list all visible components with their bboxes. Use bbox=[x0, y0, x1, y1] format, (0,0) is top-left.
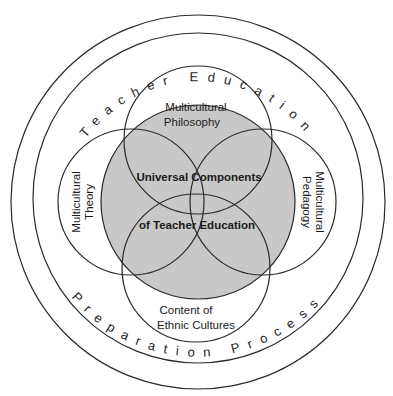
theory-label-line1: Multicultural bbox=[70, 171, 82, 232]
core-label-line1: Universal Components bbox=[136, 171, 261, 183]
core-circle bbox=[101, 105, 295, 299]
content-label-line1: Content of bbox=[159, 304, 213, 316]
philosophy-label-line2: Philosophy bbox=[164, 116, 221, 128]
pedagogy-label-line2: Pedagogy bbox=[301, 176, 313, 228]
pedagogy-label-line1: Multicultural bbox=[314, 171, 326, 232]
theory-label-line2: Theory bbox=[83, 184, 95, 220]
teacher-education-diagram: Teacher Education Preparation Process Mu… bbox=[0, 0, 393, 396]
content-label-line2: Ethnic Cultures bbox=[157, 319, 235, 331]
philosophy-label-line1: Multicultural bbox=[165, 101, 226, 113]
core-label-line2: of Teacher Education bbox=[139, 219, 255, 231]
